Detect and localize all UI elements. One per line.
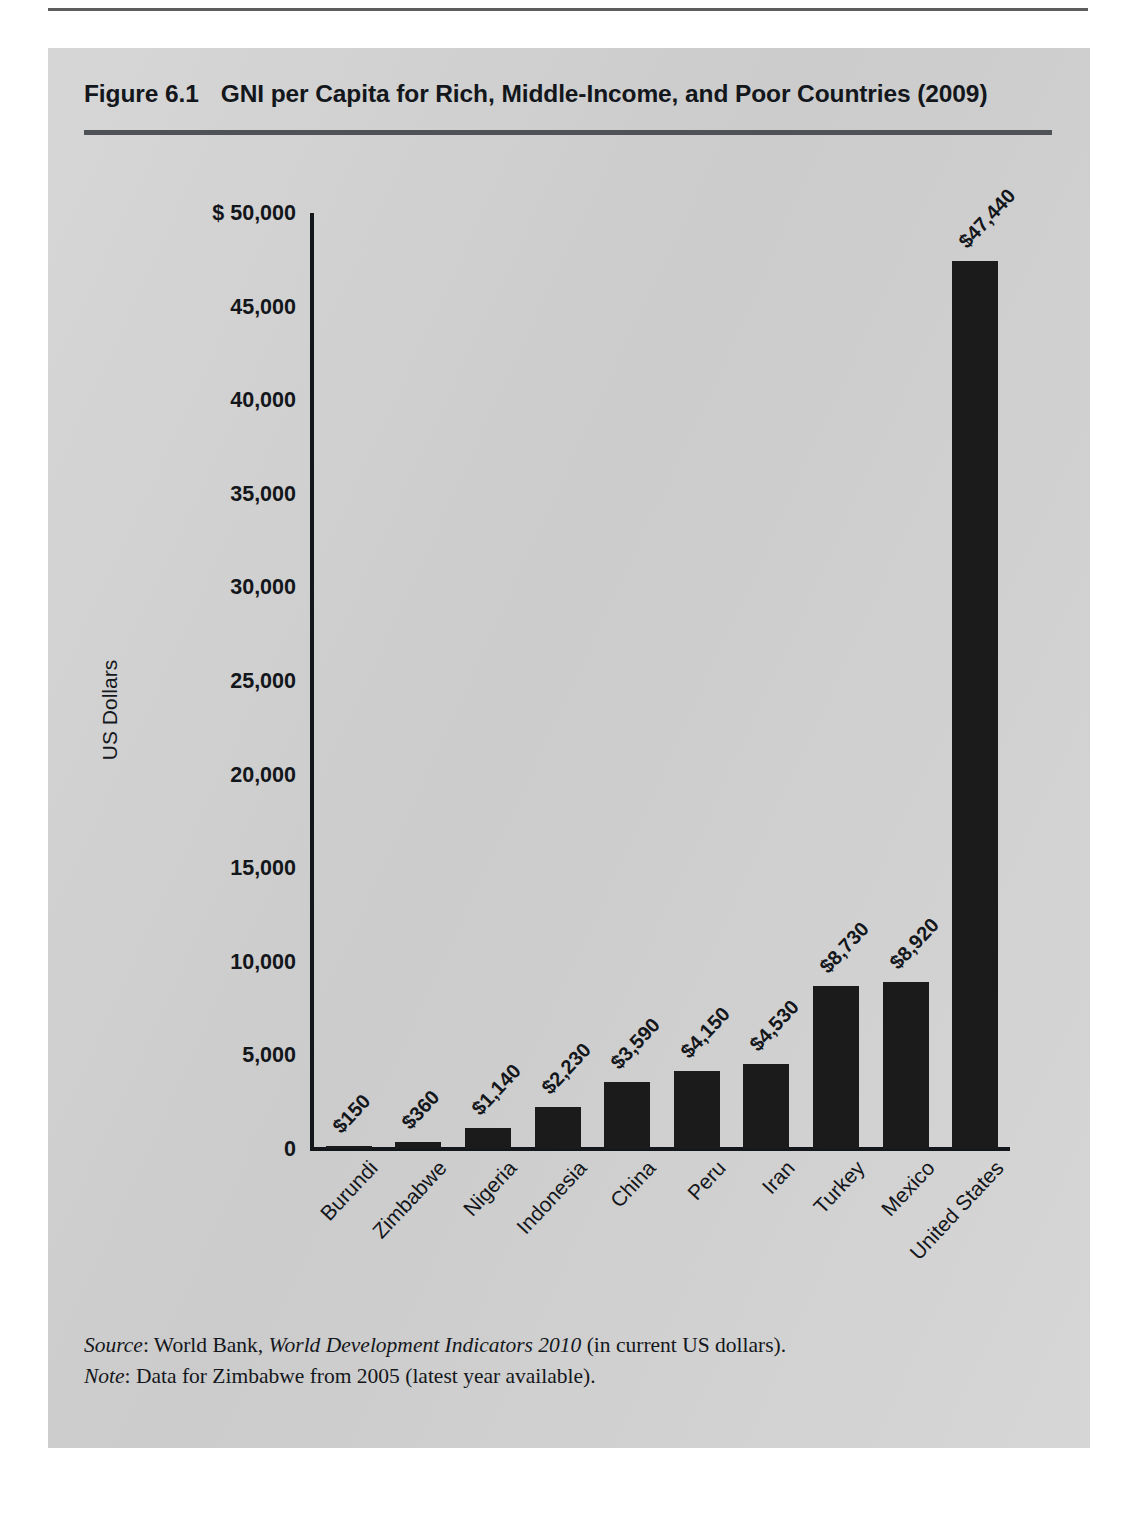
- y-tick-label: 40,000: [60, 388, 310, 413]
- bar-value-label: $150: [328, 1090, 375, 1138]
- y-tick-label: 25,000: [60, 669, 310, 694]
- y-tick-label: 10,000: [60, 949, 310, 974]
- source-italic-title: World Development Indicators 2010: [269, 1333, 582, 1357]
- bar-value-label: $4,530: [746, 996, 805, 1056]
- bar-value-label: $360: [398, 1086, 445, 1134]
- bar-slot: $4,150: [674, 213, 720, 1149]
- bar: [674, 1071, 720, 1149]
- bar-value-label: $8,920: [885, 914, 944, 974]
- note-text: : Data for Zimbabwe from 2005 (latest ye…: [125, 1364, 596, 1388]
- page-top-rule: [48, 8, 1088, 11]
- y-tick-label: 30,000: [60, 575, 310, 600]
- bar-slot: $150: [326, 213, 372, 1149]
- bar-slot: $1,140: [465, 213, 511, 1149]
- bar: [604, 1082, 650, 1149]
- source-line: Source: World Bank, World Development In…: [84, 1330, 1044, 1361]
- bar-slot: $360: [395, 213, 441, 1149]
- bar: [952, 261, 998, 1149]
- bar: [535, 1107, 581, 1149]
- bar: [883, 982, 929, 1149]
- bar: [326, 1146, 372, 1149]
- y-tick-label: 15,000: [60, 856, 310, 881]
- y-tick-label: 45,000: [60, 294, 310, 319]
- bar-slot: $2,230: [535, 213, 581, 1149]
- note-label: Note: [84, 1364, 125, 1388]
- bar-slot: $8,920: [883, 213, 929, 1149]
- bar-value-label: $47,440: [954, 184, 1020, 253]
- bar-slot: $47,440: [952, 213, 998, 1149]
- y-tick-label: $ 50,000: [60, 201, 310, 226]
- bar-slot: $8,730: [813, 213, 859, 1149]
- bar: [465, 1128, 511, 1149]
- y-tick-label: 20,000: [60, 762, 310, 787]
- bar-series: $150$360$1,140$2,230$3,590$4,150$4,530$8…: [314, 213, 1010, 1149]
- source-label: Source: [84, 1333, 143, 1357]
- y-axis-tick-labels: $ 50,00045,00040,00035,00030,00025,00020…: [48, 48, 310, 1448]
- bar: [813, 986, 859, 1149]
- y-tick-label: 35,000: [60, 481, 310, 506]
- figure-panel: Figure 6.1GNI per Capita for Rich, Middl…: [48, 48, 1090, 1448]
- y-tick-label: 5,000: [60, 1043, 310, 1068]
- bar-value-label: $2,230: [537, 1039, 596, 1099]
- bar-slot: $3,590: [604, 213, 650, 1149]
- bar-slot: $4,530: [743, 213, 789, 1149]
- y-tick-label: 0: [60, 1137, 310, 1162]
- bar-value-label: $8,730: [815, 917, 874, 977]
- note-line: Note: Data for Zimbabwe from 2005 (lates…: [84, 1361, 1044, 1392]
- source-text: : World Bank,: [143, 1333, 269, 1357]
- bar: [395, 1142, 441, 1149]
- source-tail: (in current US dollars).: [581, 1333, 786, 1357]
- bar-chart: US Dollars $ 50,00045,00040,00035,00030,…: [48, 48, 1090, 1448]
- bar-value-label: $4,150: [676, 1003, 735, 1063]
- figure-notes: Source: World Bank, World Development In…: [84, 1330, 1044, 1391]
- bar: [743, 1064, 789, 1149]
- bar-value-label: $1,140: [467, 1059, 526, 1119]
- bar-value-label: $3,590: [606, 1013, 665, 1073]
